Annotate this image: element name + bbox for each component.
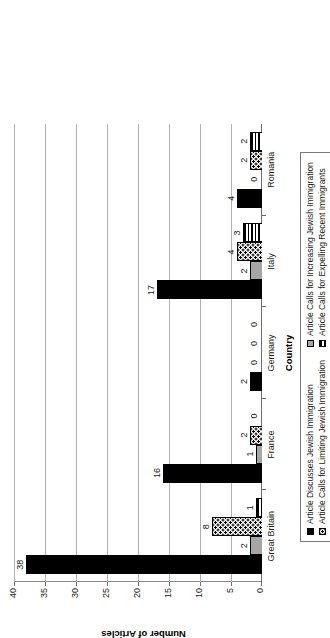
bar-value: 2: [240, 543, 249, 548]
bar-slot: 2: [14, 536, 262, 555]
ytick-label-35: 35: [40, 588, 49, 616]
bar-ro-expelling[interactable]: 2: [250, 132, 262, 151]
chart-legend: Article Discusses Jewish Immigration Art…: [300, 152, 330, 542]
bar-chart-figure: 40 35 30 25 20 15 10 5 0 Number of Artic…: [0, 0, 330, 638]
legend-swatch-stripes-icon: [319, 340, 326, 347]
bar-slot: 2: [14, 151, 262, 170]
bar-value: 2: [240, 158, 249, 163]
bar-de-discusses[interactable]: 2: [250, 372, 262, 391]
bar-value: 0: [250, 322, 259, 327]
xlabel-germany: Germany: [266, 307, 282, 399]
bar-value: 0: [250, 414, 259, 419]
ytick-mark-15: [169, 582, 170, 586]
bar-slot: 2: [14, 261, 262, 280]
xlabel-romania: Romania: [266, 124, 282, 216]
ytick-mark-35: [45, 582, 46, 586]
bar-slot: 4: [14, 242, 262, 261]
bar-slot: 0: [14, 170, 262, 189]
legend-item-increasing[interactable]: Article Calls for Increasing Jewish Immi…: [304, 159, 316, 347]
x-axis-title: Country: [283, 124, 294, 582]
bar-value: 38: [16, 560, 25, 570]
bar-group-france: 16 1 2: [14, 399, 262, 491]
x-axis-tick-labels: Great Britain France Germany Italy Roman…: [266, 124, 282, 582]
xlabel-france: France: [266, 399, 282, 491]
xlabel-great-britain: Great Britain: [266, 490, 282, 582]
legend-item-limiting[interactable]: Article Calls for Limiting Jewish Immigr…: [316, 347, 328, 535]
legend-label: Article Calls for Limiting Jewish Immigr…: [316, 360, 328, 524]
bar-value: 2: [240, 139, 249, 144]
bar-group-germany: 2 0 0: [14, 307, 262, 399]
rotated-figure-wrapper: 40 35 30 25 20 15 10 5 0 Number of Artic…: [0, 0, 330, 638]
bar-slot: 8: [14, 517, 262, 536]
bar-group-romania: 4 0 2: [14, 124, 262, 216]
bar-it-limiting[interactable]: 2: [250, 261, 262, 280]
ytick-mark-0: [261, 582, 262, 586]
ytick-label-15: 15: [164, 588, 173, 616]
bar-value: 4: [227, 196, 236, 201]
bar-value: 4: [227, 249, 236, 254]
bar-slot: 17: [14, 280, 262, 299]
bar-value: 0: [250, 177, 259, 182]
bar-slot: 38: [14, 555, 262, 574]
bar-slot: 16: [14, 464, 262, 483]
bar-value: 2: [240, 433, 249, 438]
ytick-label-5: 5: [226, 588, 235, 616]
bar-slot: 3: [14, 223, 262, 242]
ytick-mark-30: [76, 582, 77, 586]
ytick-mark-10: [200, 582, 201, 586]
bar-it-increasing[interactable]: 4: [237, 242, 262, 261]
bar-value: 1: [246, 452, 255, 457]
bar-group-italy: 17 2 4: [14, 216, 262, 308]
ytick-label-10: 10: [195, 588, 204, 616]
ytick-label-40: 40: [9, 588, 18, 616]
bar-slot: 4: [14, 189, 262, 208]
ytick-mark-25: [107, 582, 108, 586]
bar-group-great-britain: 38 2 8: [14, 490, 262, 582]
bar-ro-discusses[interactable]: 4: [237, 189, 262, 208]
bar-value: 16: [153, 468, 162, 478]
ytick-mark-20: [138, 582, 139, 586]
bar-value: 2: [240, 379, 249, 384]
bar-slot: 1: [14, 498, 262, 517]
legend-swatch-gray-icon: [307, 340, 314, 347]
legend-label: Article Calls for Increasing Jewish Immi…: [304, 162, 316, 336]
bar-value: 1: [246, 505, 255, 510]
bar-slot: 2: [14, 132, 262, 151]
bar-fr-limiting[interactable]: 1: [256, 445, 262, 464]
legend-swatch-checkerboard-icon: [319, 528, 326, 535]
bar-gb-increasing[interactable]: 8: [212, 517, 262, 536]
bar-it-expelling[interactable]: 3: [243, 223, 262, 242]
ytick-label-25: 25: [102, 588, 111, 616]
bar-fr-discusses[interactable]: 16: [163, 464, 262, 483]
bar-slot: 2: [14, 426, 262, 445]
legend-item-discusses[interactable]: Article Discusses Jewish Immigration: [304, 347, 316, 535]
legend-item-expelling[interactable]: Article Calls for Expelling Recent Immig…: [316, 159, 328, 347]
ytick-label-30: 30: [71, 588, 80, 616]
chart-page: 40 35 30 25 20 15 10 5 0 Number of Artic…: [0, 0, 330, 638]
bar-slot: 2: [14, 372, 262, 391]
bar-value: 0: [250, 360, 259, 365]
legend-swatch-solid-black-icon: [307, 528, 314, 535]
xlabel-italy: Italy: [266, 216, 282, 308]
plot-area: 40 35 30 25 20 15 10 5 0 Number of Artic…: [14, 124, 262, 582]
bar-ro-increasing[interactable]: 2: [250, 151, 262, 170]
legend-label: Article Discusses Jewish Immigration: [304, 384, 316, 524]
bar-it-discusses[interactable]: 17: [157, 280, 262, 299]
bar-value: 2: [240, 268, 249, 273]
bar-slot: 0: [14, 407, 262, 426]
bar-gb-expelling[interactable]: 1: [256, 498, 262, 517]
y-axis-title: Number of Articles: [64, 629, 224, 638]
bar-value: 3: [233, 230, 242, 235]
bar-value: 8: [202, 524, 211, 529]
bar-slot: 0: [14, 315, 262, 334]
bar-gb-limiting[interactable]: 2: [250, 536, 262, 555]
ytick-label-20: 20: [133, 588, 142, 616]
bar-fr-increasing[interactable]: 2: [250, 426, 262, 445]
ytick-mark-40: [14, 582, 15, 586]
bar-value: 0: [250, 341, 259, 346]
bar-slot: 1: [14, 445, 262, 464]
bar-gb-discusses[interactable]: 38: [26, 555, 262, 574]
ytick-label-0: 0: [256, 588, 265, 616]
bar-slot: 0: [14, 334, 262, 353]
bar-slot: 0: [14, 353, 262, 372]
